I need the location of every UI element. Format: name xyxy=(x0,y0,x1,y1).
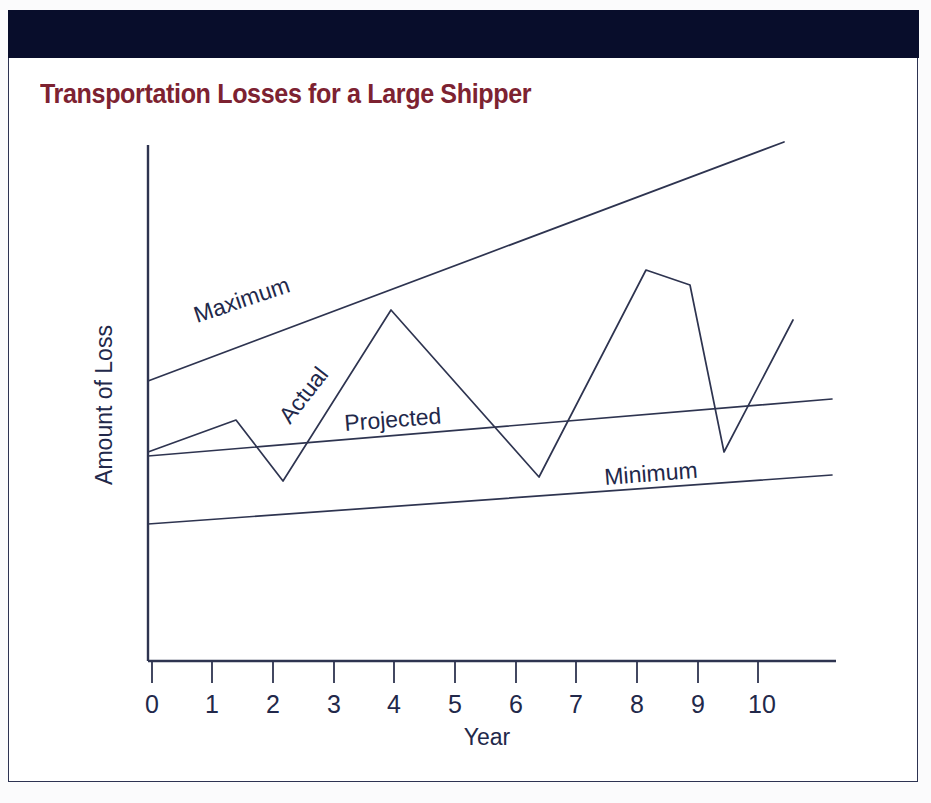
x-axis-title: Year xyxy=(464,724,511,750)
x-tick-label-5: 5 xyxy=(448,690,462,718)
x-tick-label-6: 6 xyxy=(509,690,523,718)
x-tick-labels: 0 1 2 3 4 5 6 7 8 9 10 xyxy=(145,690,776,718)
x-tick-marks xyxy=(152,661,758,683)
y-axis-title: Amount of Loss xyxy=(91,325,117,485)
series-line-projected xyxy=(148,399,832,456)
series-label-actual: Actual xyxy=(273,362,333,428)
x-tick-label-3: 3 xyxy=(327,690,341,718)
x-tick-label-4: 4 xyxy=(387,690,401,718)
x-tick-label-10: 10 xyxy=(748,690,776,718)
figure-root: Transportation Losses for a Large Shippe… xyxy=(0,0,931,803)
series-label-maximum: Maximum xyxy=(190,271,293,327)
x-tick-label-0: 0 xyxy=(145,690,159,718)
series-line-minimum xyxy=(148,475,832,524)
x-tick-label-1: 1 xyxy=(205,690,219,718)
chart-plot: 0 1 2 3 4 5 6 7 8 9 10 Year Amount of Lo… xyxy=(0,0,931,803)
x-tick-label-7: 7 xyxy=(569,690,583,718)
series-line-maximum xyxy=(148,142,784,381)
x-tick-label-2: 2 xyxy=(266,690,280,718)
x-tick-label-9: 9 xyxy=(691,690,705,718)
x-tick-label-8: 8 xyxy=(630,690,644,718)
axes-group xyxy=(148,145,836,661)
series-label-projected: Projected xyxy=(343,402,442,436)
